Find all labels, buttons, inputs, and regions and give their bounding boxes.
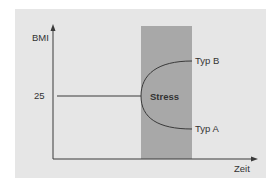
typ-a-label: Typ A [195, 124, 219, 134]
stress-label: Stress [150, 92, 179, 102]
x-axis-arrow-icon [251, 157, 258, 162]
x-axis-label: Zeit [234, 164, 250, 174]
typ-b-label: Typ B [195, 56, 219, 66]
y-axis-arrow-icon [51, 24, 56, 31]
baseline-value-label: 25 [34, 91, 45, 101]
y-axis-label: BMI [32, 33, 49, 43]
